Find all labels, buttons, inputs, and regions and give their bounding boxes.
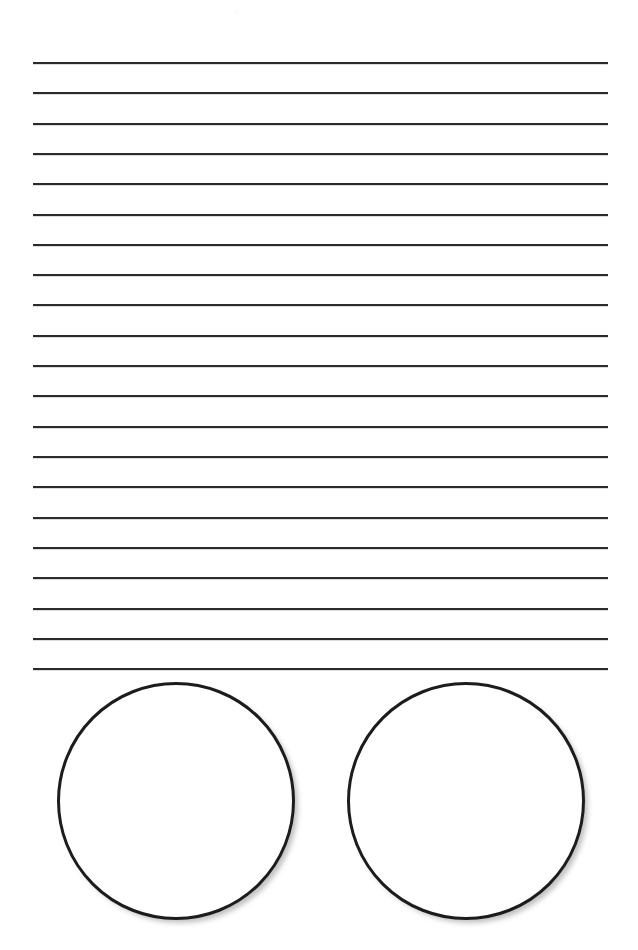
writing-line <box>33 608 608 610</box>
writing-line <box>33 183 608 185</box>
answer-circles <box>0 670 638 950</box>
writing-line <box>33 638 608 640</box>
writing-line <box>33 517 608 519</box>
writing-line <box>33 92 608 94</box>
worksheet-page <box>0 0 638 950</box>
writing-line <box>33 395 608 397</box>
writing-line <box>33 456 608 458</box>
writing-line <box>33 274 608 276</box>
writing-line <box>33 62 608 64</box>
writing-line <box>33 153 608 155</box>
right-circle[interactable] <box>347 682 585 920</box>
ruled-writing-lines <box>0 0 638 690</box>
writing-line <box>33 123 608 125</box>
writing-line <box>33 577 608 579</box>
writing-line <box>33 426 608 428</box>
writing-line <box>33 486 608 488</box>
left-circle[interactable] <box>57 682 295 920</box>
writing-line <box>33 335 608 337</box>
writing-line <box>33 214 608 216</box>
writing-line <box>33 547 608 549</box>
writing-line <box>33 304 608 306</box>
writing-line <box>33 244 608 246</box>
writing-line <box>33 365 608 367</box>
